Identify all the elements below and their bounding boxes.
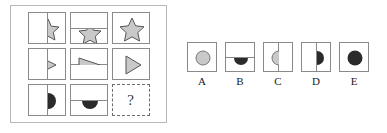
matrix-cell-r3c1[interactable] bbox=[28, 84, 66, 116]
matrix-cell-r3c3-missing[interactable]: ? bbox=[112, 84, 150, 116]
question-mark-label: ? bbox=[113, 93, 149, 108]
answer-option-e[interactable]: E bbox=[339, 42, 369, 87]
matrix-cell-r2c3[interactable] bbox=[112, 48, 150, 80]
triangle-shape-half-right bbox=[29, 49, 65, 79]
circle-shape-whole-light bbox=[188, 43, 216, 71]
answer-option-e-box[interactable] bbox=[339, 42, 369, 72]
circle-shape-half-bottom bbox=[71, 85, 107, 115]
answer-option-d-box[interactable] bbox=[301, 42, 331, 72]
circle-shape-half-left-light bbox=[264, 43, 292, 71]
answer-option-d[interactable]: D bbox=[301, 42, 331, 87]
star-shape-half-right bbox=[29, 13, 65, 43]
answer-option-d-label: D bbox=[301, 76, 331, 87]
triangle-shape-half-top bbox=[71, 49, 107, 79]
answer-option-e-label: E bbox=[339, 76, 369, 87]
matrix-grid: ? bbox=[28, 12, 150, 116]
answer-options-row: A B bbox=[187, 42, 369, 87]
triangle-shape-whole bbox=[113, 49, 149, 79]
matrix-panel: ? bbox=[10, 5, 167, 123]
answer-option-c[interactable]: C bbox=[263, 42, 293, 87]
matrix-cell-r3c2[interactable] bbox=[70, 84, 108, 116]
matrix-cell-r2c2[interactable] bbox=[70, 48, 108, 80]
circle-shape-half-bottom-dark bbox=[226, 43, 254, 71]
answer-option-c-box[interactable] bbox=[263, 42, 293, 72]
star-shape-whole bbox=[113, 13, 149, 43]
circle-shape-whole-dark bbox=[340, 43, 368, 71]
answer-option-a-label: A bbox=[187, 76, 217, 87]
matrix-cell-r1c3[interactable] bbox=[112, 12, 150, 44]
matrix-cell-r2c1[interactable] bbox=[28, 48, 66, 80]
answer-option-b-box[interactable] bbox=[225, 42, 255, 72]
answer-option-c-label: C bbox=[263, 76, 293, 87]
answer-option-a[interactable]: A bbox=[187, 42, 217, 87]
matrix-cell-r1c1[interactable] bbox=[28, 12, 66, 44]
answer-option-b[interactable]: B bbox=[225, 42, 255, 87]
matrix-cell-r1c2[interactable] bbox=[70, 12, 108, 44]
circle-shape-half-right bbox=[29, 85, 65, 115]
star-shape-half-bottom bbox=[71, 13, 107, 43]
answer-option-b-label: B bbox=[225, 76, 255, 87]
circle-shape-half-right-dark bbox=[302, 43, 330, 71]
answer-option-a-box[interactable] bbox=[187, 42, 217, 72]
